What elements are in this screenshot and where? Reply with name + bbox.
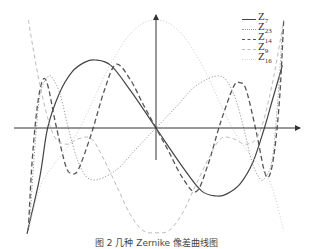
legend-item-z16: Z16	[242, 54, 272, 64]
legend-swatch-solid	[242, 19, 256, 20]
legend-swatch-dashed	[242, 39, 256, 40]
legend-label-z16: 16	[265, 58, 272, 66]
chart-legend: Z7 Z23 Z14 Z9 Z16	[242, 14, 272, 64]
legend-swatch-dashed-light	[242, 49, 256, 50]
legend-swatch-dotted	[242, 29, 256, 30]
legend-swatch-dashdot-light	[242, 59, 256, 60]
curve-z7	[27, 60, 282, 234]
figure-caption: 图 2 几种 Zernike 像差曲线图	[0, 236, 313, 249]
